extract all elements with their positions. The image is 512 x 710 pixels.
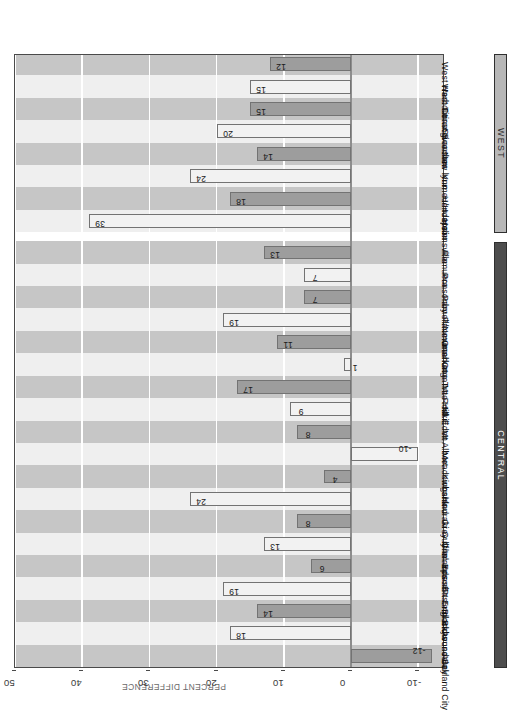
axis-tick-label: 0 xyxy=(339,678,357,689)
bar: 4 xyxy=(324,470,351,484)
bar-value-label: 8 xyxy=(306,519,311,529)
axis-tick-mark xyxy=(415,670,419,671)
bar: 19 xyxy=(223,313,351,327)
plot-area: -121814196138244-10891711119771339182414… xyxy=(14,54,444,668)
background-stripe xyxy=(15,421,443,443)
background-stripe xyxy=(15,600,443,622)
background-stripe xyxy=(15,187,443,209)
gridline xyxy=(149,55,151,667)
bar: 9 xyxy=(290,402,350,416)
bar-value-label: 6 xyxy=(319,564,324,574)
bar-value-label: 18 xyxy=(236,197,246,207)
background-stripe xyxy=(15,54,443,75)
bar-value-label: 13 xyxy=(270,250,280,260)
bar: 18 xyxy=(230,192,351,206)
bar: 15 xyxy=(250,102,351,116)
background-stripe xyxy=(15,398,443,420)
bar-value-label: 39 xyxy=(95,219,105,229)
bar-value-label: 8 xyxy=(306,430,311,440)
axis-tick-mark xyxy=(12,670,16,671)
bar: 8 xyxy=(297,514,351,528)
bar: 39 xyxy=(89,214,351,228)
bar-value-label: 17 xyxy=(243,385,253,395)
bar-value-label: 24 xyxy=(196,497,206,507)
bar-value-label: 14 xyxy=(263,152,273,162)
gridline xyxy=(417,55,419,667)
bar: -12 xyxy=(351,649,432,663)
bar-value-label: 15 xyxy=(256,85,266,95)
bar: 18 xyxy=(230,626,351,640)
bar-value-label: 24 xyxy=(196,174,206,184)
axis-tick-label: 10 xyxy=(272,678,290,689)
bar-value-label: 1 xyxy=(353,363,358,373)
bar: 24 xyxy=(190,169,351,183)
background-stripe xyxy=(15,264,443,286)
bar-value-label: 7 xyxy=(312,295,317,305)
bar: 19 xyxy=(223,582,351,596)
background-stripe xyxy=(15,465,443,487)
background-stripe xyxy=(15,622,443,644)
region-band-label: WEST xyxy=(495,55,506,232)
axis-tick-mark xyxy=(79,670,83,671)
bar-value-label: -10 xyxy=(399,444,412,454)
region-band-central: CENTRAL xyxy=(494,242,507,668)
bar: 14 xyxy=(257,604,351,618)
background-stripe xyxy=(15,331,443,353)
bar: 8 xyxy=(297,425,351,439)
background-stripe xyxy=(15,143,443,165)
background-stripe xyxy=(15,286,443,308)
bar: -10 xyxy=(351,447,418,461)
gridline xyxy=(216,55,218,667)
bar: 13 xyxy=(264,537,351,551)
bar-value-label: 19 xyxy=(229,318,239,328)
category-label: West Harbour xyxy=(440,62,450,118)
bar-value-label: 14 xyxy=(263,609,273,619)
axis-tick-label: 50 xyxy=(4,678,22,689)
background-stripe xyxy=(15,376,443,398)
axis-tick-mark xyxy=(214,670,218,671)
bar-value-label: 15 xyxy=(256,107,266,117)
axis-tick-mark xyxy=(146,670,150,671)
bar: 6 xyxy=(311,559,351,573)
background-stripe xyxy=(15,533,443,555)
axis-tick-label: 20 xyxy=(205,678,223,689)
y-axis-title: PERCENT DIFFERENCE xyxy=(26,682,226,692)
bar: 20 xyxy=(217,125,351,139)
bar: 24 xyxy=(190,492,351,506)
bar-value-label: 13 xyxy=(270,542,280,552)
gridline xyxy=(81,55,83,667)
region-band-west: WEST xyxy=(494,54,507,233)
background-stripe xyxy=(15,555,443,577)
bar: 7 xyxy=(304,268,351,282)
background-stripe xyxy=(15,510,443,532)
axis-tick-mark xyxy=(281,670,285,671)
bar-value-label: 18 xyxy=(236,631,246,641)
bar: 7 xyxy=(304,290,351,304)
bar: 17 xyxy=(237,380,351,394)
gridline xyxy=(14,55,16,667)
bar: 14 xyxy=(257,147,351,161)
bar-value-label: 7 xyxy=(312,273,317,283)
background-stripe xyxy=(15,98,443,120)
bar-value-label: 9 xyxy=(299,407,304,417)
bar: 1 xyxy=(344,358,351,372)
region-band-label: CENTRAL xyxy=(495,243,506,667)
axis-tick-mark xyxy=(348,670,352,671)
bar-value-label: 19 xyxy=(229,587,239,597)
bar: 11 xyxy=(277,335,351,349)
axis-tick-label: 40 xyxy=(71,678,89,689)
background-stripe xyxy=(15,241,443,263)
background-stripe xyxy=(15,353,443,375)
bar-value-label: 11 xyxy=(283,340,292,350)
bar-value-label: 20 xyxy=(223,129,233,139)
bar: 12 xyxy=(270,57,351,71)
bar-value-label: -12 xyxy=(412,646,425,656)
bar: 15 xyxy=(250,80,351,94)
background-stripe xyxy=(15,75,443,97)
axis-tick-label: 30 xyxy=(138,678,156,689)
bar: 13 xyxy=(264,246,351,260)
axis-tick-label: -10 xyxy=(407,678,425,689)
